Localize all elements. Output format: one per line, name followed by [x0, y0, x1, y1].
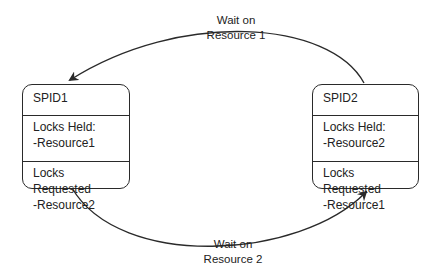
locks-held-label: Locks Held:: [33, 119, 119, 135]
edge-label-top-line1: Wait on: [176, 13, 296, 28]
edge-label-bottom-line1: Wait on: [173, 237, 293, 252]
locks-held-label: Locks Held:: [323, 119, 408, 135]
locks-requested-value: -Resource1: [323, 197, 408, 213]
process-box-spid1: SPID1 Locks Held: -Resource1 Locks Reque…: [22, 84, 130, 189]
process-title: SPID2: [313, 85, 418, 116]
locks-held-section: Locks Held: -Resource1: [23, 116, 129, 162]
locks-held-value: -Resource1: [33, 135, 119, 151]
edge-label-bottom-line2: Resource 2: [173, 252, 293, 267]
locks-requested-label: Locks Requested: [323, 165, 408, 197]
process-title: SPID1: [23, 85, 129, 116]
locks-held-section: Locks Held: -Resource2: [313, 116, 418, 162]
locks-requested-section: Locks Requested -Resource1: [313, 162, 418, 205]
edge-label-top-line2: Resource 1: [176, 28, 296, 43]
locks-requested-section: Locks Requested -Resource2: [23, 162, 129, 205]
locks-requested-label: Locks Requested: [33, 165, 119, 197]
edge-label-top: Wait on Resource 1: [176, 13, 296, 43]
locks-requested-value: -Resource2: [33, 197, 119, 213]
locks-held-value: -Resource2: [323, 135, 408, 151]
process-box-spid2: SPID2 Locks Held: -Resource2 Locks Reque…: [312, 84, 419, 189]
edge-label-bottom: Wait on Resource 2: [173, 237, 293, 267]
